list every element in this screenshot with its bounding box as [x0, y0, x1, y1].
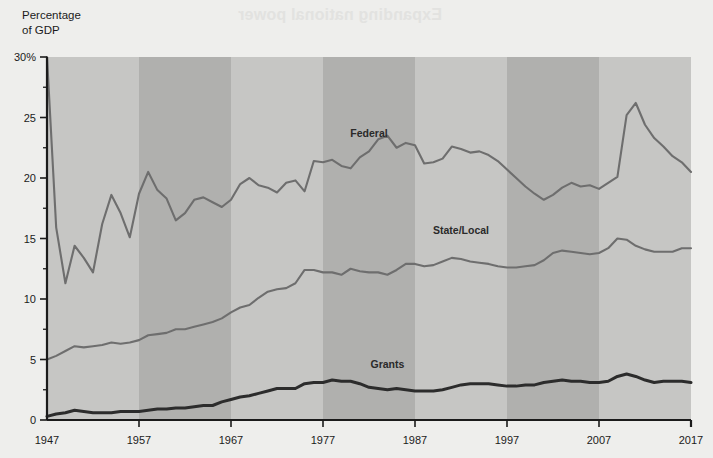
series-label-grants: Grants — [370, 358, 404, 370]
y-tick-label: 5 — [30, 354, 36, 366]
decade-band — [47, 57, 139, 420]
decade-band — [507, 57, 599, 420]
y-tick-label: 0 — [30, 414, 36, 426]
series-label-state-local: State/Local — [433, 224, 489, 236]
decade-band — [415, 57, 507, 420]
x-tick-label: 1967 — [219, 434, 243, 446]
y-tick-label: 30% — [14, 51, 36, 63]
chart-figure: Expanding national power Percentage of G… — [0, 0, 713, 458]
y-tick-label: 25 — [24, 112, 36, 124]
series-label-federal: Federal — [350, 127, 387, 139]
decade-bands — [47, 57, 691, 420]
x-tick-label: 2017 — [679, 434, 703, 446]
decade-band — [139, 57, 231, 420]
line-chart-plot: 051015202530%194719571967197719871997200… — [0, 0, 713, 458]
x-tick-label: 1957 — [127, 434, 151, 446]
y-tick-label: 10 — [24, 293, 36, 305]
y-tick-label: 15 — [24, 233, 36, 245]
x-tick-label: 1977 — [311, 434, 335, 446]
x-tick-label: 1947 — [35, 434, 59, 446]
y-tick-label: 20 — [24, 172, 36, 184]
x-tick-label: 2007 — [587, 434, 611, 446]
decade-band — [599, 57, 691, 420]
x-tick-label: 1987 — [403, 434, 427, 446]
decade-band — [231, 57, 323, 420]
x-tick-label: 1997 — [495, 434, 519, 446]
